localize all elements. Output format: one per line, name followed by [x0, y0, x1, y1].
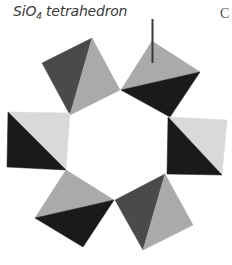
- tetrahedron-left: [7, 112, 70, 170]
- panel-letter: C: [220, 6, 229, 22]
- label-formula-prefix: SiO: [13, 3, 36, 19]
- tetrahedron-bottom-left: [35, 170, 114, 247]
- tetrahedron-top-left: [42, 38, 120, 115]
- tetrahedron-bottom-right: [115, 174, 193, 250]
- label-text-suffix: tetrahedron: [42, 3, 128, 19]
- tetrahedron-top-right: [121, 41, 200, 117]
- six-membered-ring-of-tetrahedra: [0, 0, 232, 265]
- silicate-ring-diagram: SiO4 tetrahedron C: [0, 0, 232, 265]
- tetrahedron-label: SiO4 tetrahedron: [13, 3, 127, 21]
- tetrahedron-right: [167, 117, 227, 175]
